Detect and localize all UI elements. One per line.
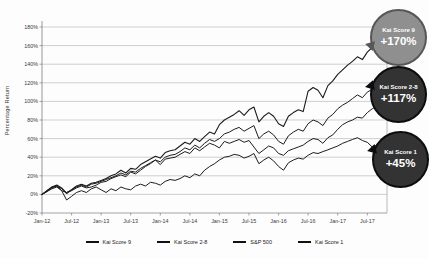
y-tick-label: 60% — [27, 136, 38, 142]
line-chart-plot-area: -20%0%20%40%60%80%100%120%140%160%180%Ja… — [0, 0, 429, 237]
legend-line-marker — [157, 241, 170, 243]
badge-series-label: Kai Score 9 — [382, 27, 415, 34]
y-tick-label: 140% — [24, 61, 38, 67]
legend-label: Kai Score 2-8 — [174, 239, 207, 245]
series-line-kai-score-1 — [42, 138, 387, 200]
x-tick-label: Jan-17 — [329, 218, 345, 224]
x-tick-label: Jul-13 — [123, 218, 138, 224]
y-tick-label: 180% — [24, 24, 38, 30]
y-axis-title: Percentage Return — [4, 73, 13, 149]
legend-item-kai-score-1: Kai Score 1 — [298, 239, 343, 245]
legend-line-marker — [233, 241, 246, 243]
x-tick-label: Jul-15 — [242, 218, 257, 224]
y-tick-label: 20% — [27, 173, 38, 179]
legend-label: Kai Score 1 — [315, 239, 343, 245]
x-tick-label: Jul-17 — [360, 218, 375, 224]
chart-canvas: -20%0%20%40%60%80%100%120%140%160%180%Ja… — [0, 0, 429, 259]
y-tick-label: 120% — [24, 80, 38, 86]
legend-item-kai-score-9: Kai Score 9 — [86, 239, 131, 245]
badge-series-label: Kai Score 1 — [384, 149, 417, 156]
legend-line-marker — [86, 241, 99, 243]
badge-pointer-icon — [366, 144, 377, 156]
y-tick-label: 80% — [27, 117, 38, 123]
series-line-kai-score-9 — [42, 36, 387, 194]
x-tick-label: Jan-15 — [211, 218, 227, 224]
badge-kai-score-9: Kai Score 9 +170% — [370, 9, 427, 66]
legend-label: S&P 500 — [250, 239, 272, 245]
x-tick-label: Jan-13 — [93, 218, 109, 224]
badge-return-value: +170% — [380, 35, 416, 48]
x-tick-label: Jul-16 — [301, 218, 316, 224]
badge-pointer-icon — [364, 39, 375, 51]
x-tick-label: Jan-16 — [270, 218, 286, 224]
x-tick-label: Jan-12 — [34, 218, 50, 224]
legend-item-kai-score-2-8: Kai Score 2-8 — [157, 239, 207, 245]
series-line-s-p-500 — [42, 95, 387, 194]
badge-return-value: +117% — [381, 92, 417, 105]
badge-kai-score-1: Kai Score 1 +45% — [372, 131, 429, 188]
y-tick-label: 40% — [27, 154, 38, 160]
series-line-kai-score-2-8 — [42, 86, 387, 195]
legend-line-marker — [298, 241, 311, 243]
badge-pointer-icon — [364, 80, 375, 92]
y-tick-label: 0% — [30, 191, 38, 197]
chart-legend: Kai Score 9Kai Score 2-8S&P 500Kai Score… — [42, 239, 387, 245]
y-tick-label: -20% — [25, 210, 38, 216]
x-tick-label: Jul-12 — [64, 218, 79, 224]
legend-label: Kai Score 9 — [103, 239, 131, 245]
badge-kai-score-2-8: Kai Score 2-8 +117% — [370, 66, 427, 123]
badge-series-label: Kai Score 2-8 — [379, 84, 417, 91]
x-tick-label: Jan-14 — [152, 218, 168, 224]
y-tick-label: 100% — [24, 98, 38, 104]
y-tick-label: 160% — [24, 43, 38, 49]
x-tick-label: Jul-14 — [183, 218, 198, 224]
badge-return-value: +45% — [386, 157, 416, 170]
legend-item-s-p-500: S&P 500 — [233, 239, 272, 245]
